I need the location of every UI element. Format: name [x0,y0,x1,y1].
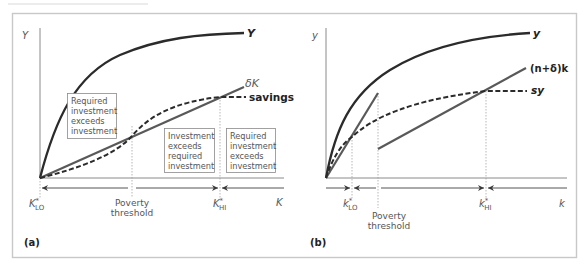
output-curve-label: Y [247,27,256,40]
depreciation-label: δK [245,77,260,90]
svg-text:Required: Required [71,96,107,106]
savings-label: savings [249,91,294,103]
svg-text:required: required [168,151,202,161]
svg-text:exceeds: exceeds [168,141,202,151]
panel-b-tag: (b) [310,237,326,248]
poverty-threshold-label-1: Poverty [372,211,407,221]
svg-text:investment: investment [71,106,118,116]
region-box-3: Required investment exceeds investment [227,129,278,173]
svg-text:Required: Required [230,131,266,141]
svg-text:Investment: Investment [168,131,215,141]
region-box-2: Investment exceeds required investment [165,129,216,173]
svg-text:exceeds: exceeds [71,116,105,126]
poverty-threshold-label-2: threshold [111,208,153,218]
break-even-label: (n+δ)k [530,63,569,74]
y-axis-label: y [311,30,319,41]
svg-text:investment: investment [71,126,118,136]
svg-text:investment: investment [168,161,215,171]
output-curve-label: y [533,27,541,40]
poverty-threshold-label-2: threshold [368,221,410,231]
svg-text:exceeds: exceeds [230,151,264,161]
region-box-1: Required investment exceeds investment [68,94,119,139]
poverty-threshold-label-1: Poverty [115,198,150,208]
svg-text:investment: investment [230,141,277,151]
panel-a-tag: (a) [24,237,40,248]
y-axis-label: Y [22,30,29,41]
svg-text:investment: investment [230,161,277,171]
poverty-trap-figure: Y δK savings Y K Required investment exc… [0,0,588,271]
savings-label: sy [531,84,545,96]
